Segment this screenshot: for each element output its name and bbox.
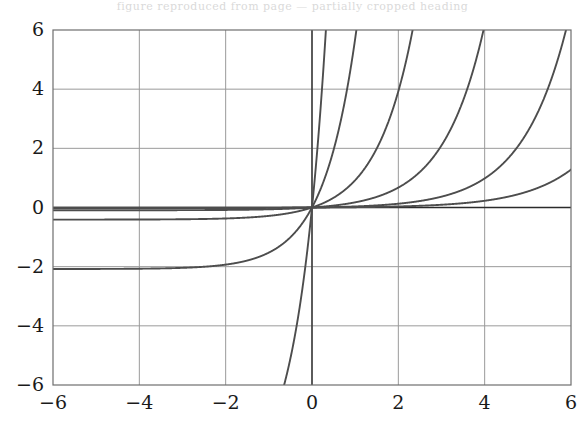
curve-curve-3 xyxy=(53,13,416,220)
y-tick-label: 2 xyxy=(0,136,44,158)
figure-root: figure reproduced from page — partially … xyxy=(0,0,585,426)
y-tick-label: −4 xyxy=(0,314,44,336)
y-tick-label: −2 xyxy=(0,255,44,277)
x-tick-label: −2 xyxy=(196,391,256,413)
plot-canvas xyxy=(0,0,585,426)
y-tick-label: 6 xyxy=(0,18,44,40)
x-tick-label: 6 xyxy=(541,391,585,413)
x-tick-label: −4 xyxy=(109,391,169,413)
y-tick-label: 0 xyxy=(0,196,44,218)
y-tick-label: 4 xyxy=(0,77,44,99)
curve-curve-4 xyxy=(53,13,487,211)
x-tick-label: 4 xyxy=(455,391,515,413)
x-tick-label: 0 xyxy=(282,391,342,413)
x-tick-label: −6 xyxy=(23,391,83,413)
x-tick-label: 2 xyxy=(368,391,428,413)
curve-curve-2 xyxy=(53,13,359,269)
